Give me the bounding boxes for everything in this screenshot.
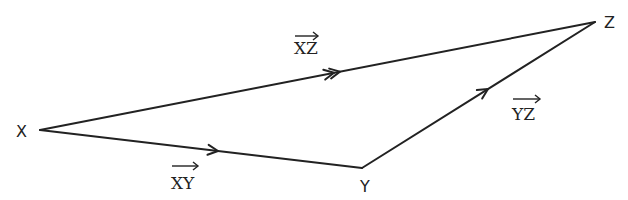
vertex-label-z: Z xyxy=(604,13,615,32)
vertex-label-y: Y xyxy=(359,177,370,196)
vector-triangle-diagram: X Y Z XZ XY YZ xyxy=(0,0,628,200)
vector-label-yz-text: YZ xyxy=(511,104,535,124)
vector-label-xz-text: XZ xyxy=(294,38,318,58)
vector-label-xy-text: XY xyxy=(171,173,195,193)
vertex-label-x: X xyxy=(16,122,27,141)
vector-label-xz: XZ xyxy=(294,32,318,58)
double-arrowhead-xz xyxy=(323,67,341,80)
edge-xy xyxy=(40,130,362,168)
vector-label-xy: XY xyxy=(171,162,198,193)
vector-label-yz: YZ xyxy=(511,95,540,124)
